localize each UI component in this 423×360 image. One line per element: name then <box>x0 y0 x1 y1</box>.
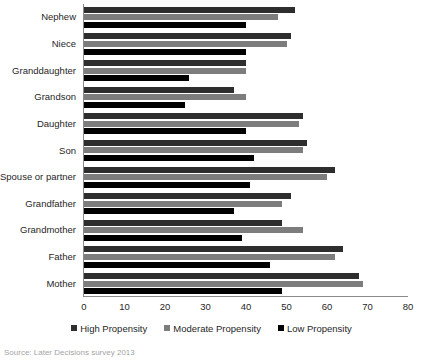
bar-group <box>84 190 408 217</box>
bar <box>84 140 307 146</box>
category-label: Father <box>49 252 76 262</box>
bar <box>84 262 270 268</box>
bar <box>84 49 246 55</box>
category-label: Son <box>59 146 76 156</box>
x-tick-label: 40 <box>241 301 252 313</box>
x-tick-label: 50 <box>281 301 292 313</box>
bar-group <box>84 217 408 244</box>
x-tick-label: 70 <box>362 301 373 313</box>
bar-group <box>84 4 408 31</box>
bar <box>84 227 303 233</box>
bar <box>84 254 335 260</box>
category-label: Grandson <box>34 92 76 102</box>
category-label: Mother <box>46 279 76 289</box>
bar-group <box>84 57 408 84</box>
bar <box>84 174 327 180</box>
bar <box>84 7 295 13</box>
category-label: Granddaughter <box>12 66 76 76</box>
bar <box>84 60 246 66</box>
x-tick-label: 10 <box>119 301 130 313</box>
bar <box>84 288 282 294</box>
bar <box>84 75 189 81</box>
category-label: Niece <box>52 39 76 49</box>
bar <box>84 113 303 119</box>
category-label: Grandfather <box>25 199 76 209</box>
legend-item[interactable]: High Propensity <box>71 323 147 334</box>
bar <box>84 128 246 134</box>
bar-group <box>84 270 408 297</box>
bar <box>84 235 242 241</box>
bar <box>84 41 287 47</box>
legend-swatch-icon <box>71 325 77 331</box>
bar <box>84 220 282 226</box>
bar <box>84 147 303 153</box>
x-axis-tick-labels: 01020304050607080 <box>0 301 423 315</box>
bar <box>84 121 299 127</box>
legend-swatch-icon <box>164 325 170 331</box>
bar-group <box>84 111 408 138</box>
category-label: Daughter <box>37 119 76 129</box>
bar <box>84 246 343 252</box>
x-tick-label: 20 <box>160 301 171 313</box>
bar <box>84 94 246 100</box>
bar <box>84 87 234 93</box>
bar-group <box>84 31 408 58</box>
category-label: Grandmother <box>20 225 76 235</box>
x-tick-label: 80 <box>403 301 414 313</box>
source-note: Source: Later Decisions survey 2013 <box>4 348 135 358</box>
x-tick-label: 60 <box>322 301 333 313</box>
bar-chart: NephewNieceGranddaughterGrandsonDaughter… <box>0 0 423 360</box>
bar <box>84 193 291 199</box>
bar-group <box>84 137 408 164</box>
legend-item[interactable]: Low Propensity <box>278 323 352 334</box>
bar <box>84 273 359 279</box>
category-label: Nephew <box>41 12 76 22</box>
bar <box>84 208 234 214</box>
plot-area <box>84 4 408 297</box>
x-tick-label: 30 <box>200 301 211 313</box>
chart-legend: High PropensityModerate PropensityLow Pr… <box>0 321 423 335</box>
legend-label: Low Propensity <box>287 323 352 334</box>
bar <box>84 33 291 39</box>
bar-group <box>84 164 408 191</box>
legend-label: Moderate Propensity <box>173 323 261 334</box>
legend-item[interactable]: Moderate Propensity <box>164 323 261 334</box>
legend-label: High Propensity <box>80 323 147 334</box>
bar <box>84 182 250 188</box>
bar-group <box>84 84 408 111</box>
bar <box>84 102 185 108</box>
bar <box>84 22 246 28</box>
bar <box>84 14 278 20</box>
legend-swatch-icon <box>278 325 284 331</box>
category-axis-labels: NephewNieceGranddaughterGrandsonDaughter… <box>0 4 80 297</box>
category-label: Spouse or partner <box>0 172 76 182</box>
bar <box>84 68 246 74</box>
bar <box>84 155 254 161</box>
bar <box>84 167 335 173</box>
x-tick-label: 0 <box>81 301 86 313</box>
bar <box>84 201 282 207</box>
bar-group <box>84 244 408 271</box>
bar <box>84 281 363 287</box>
